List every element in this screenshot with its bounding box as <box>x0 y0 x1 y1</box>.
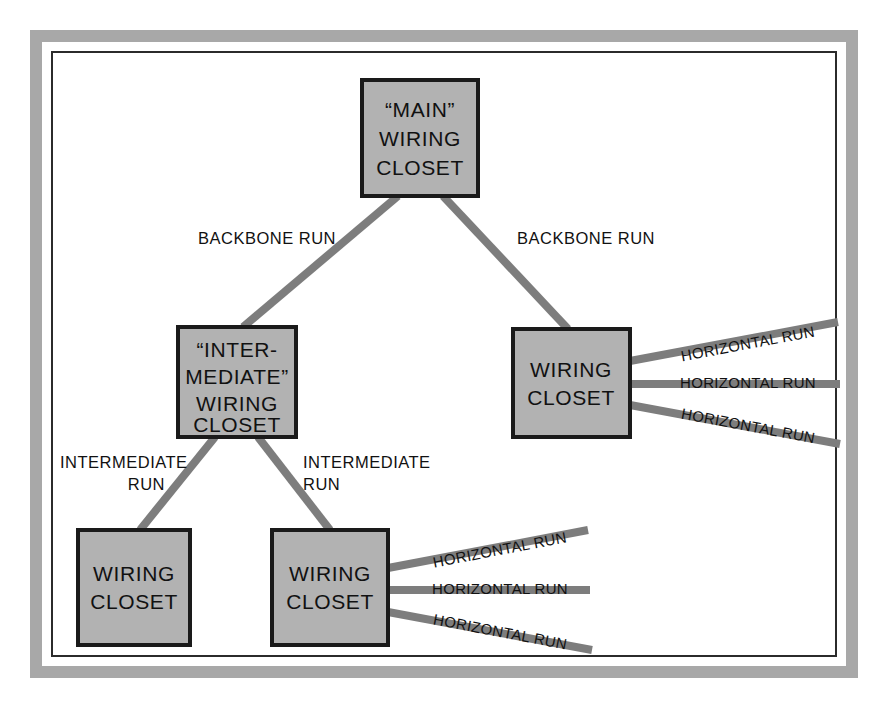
backbone-run-left-label: BACKBONE RUN <box>198 229 336 247</box>
intermediate-run-left-label-line-1: INTERMEDIATE <box>60 453 188 471</box>
backbone-run-right-label: BACKBONE RUN <box>517 229 655 247</box>
bottom-middle-wiring-closet-line-2: CLOSET <box>286 590 374 613</box>
horizontal-run-label-bottom-2: HORIZONTAL RUN <box>432 580 568 597</box>
bottom-middle-wiring-closet-box <box>272 530 388 645</box>
right-wiring-closet-line-2: CLOSET <box>527 386 615 409</box>
bottom-middle-wiring-closet-line-1: WIRING <box>289 562 371 585</box>
diagram-root: “MAIN” WIRING CLOSET “INTER- MEDIATE” WI… <box>0 0 884 707</box>
main-wiring-closet[interactable]: “MAIN” WIRING CLOSET <box>362 80 478 196</box>
bottom-left-wiring-closet-line-1: WIRING <box>93 562 175 585</box>
bottom-left-wiring-closet[interactable]: WIRING CLOSET <box>78 530 190 645</box>
right-wiring-closet-line-1: WIRING <box>530 358 612 381</box>
intermediate-wiring-closet-line-2: MEDIATE” <box>185 365 289 388</box>
intermediate-run-right-label-line-2: RUN <box>303 475 340 493</box>
intermediate-run-right-label-line-1: INTERMEDIATE <box>303 453 431 471</box>
bottom-left-wiring-closet-line-2: CLOSET <box>90 590 178 613</box>
right-wiring-closet-box <box>513 329 630 437</box>
intermediate-wiring-closet-line-4: CLOSET <box>193 413 281 436</box>
intermediate-wiring-closet[interactable]: “INTER- MEDIATE” WIRING CLOSET <box>178 327 296 437</box>
horizontal-run-label-right-2: HORIZONTAL RUN <box>680 374 816 391</box>
cabling-hierarchy-diagram: “MAIN” WIRING CLOSET “INTER- MEDIATE” WI… <box>0 0 884 707</box>
intermediate-wiring-closet-line-3: WIRING <box>196 392 278 415</box>
intermediate-run-left-label-line-2: RUN <box>128 475 165 493</box>
main-wiring-closet-line-1: “MAIN” <box>385 98 455 121</box>
bottom-middle-wiring-closet[interactable]: WIRING CLOSET <box>272 530 388 645</box>
main-wiring-closet-line-3: CLOSET <box>376 156 464 179</box>
bottom-left-wiring-closet-box <box>78 530 190 645</box>
main-wiring-closet-line-2: WIRING <box>379 127 461 150</box>
intermediate-wiring-closet-line-1: “INTER- <box>196 338 277 361</box>
right-wiring-closet[interactable]: WIRING CLOSET <box>513 329 630 437</box>
